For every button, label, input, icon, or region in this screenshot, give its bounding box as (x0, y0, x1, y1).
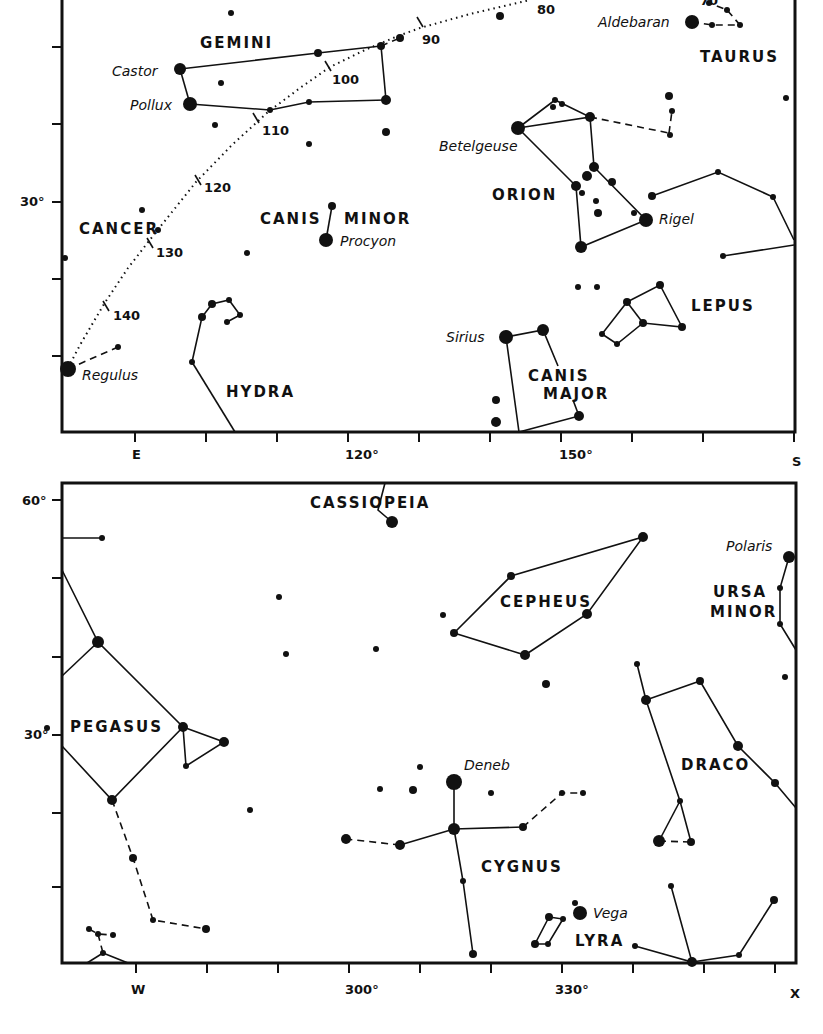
star-dot (574, 411, 584, 421)
star-dot (319, 233, 333, 247)
star-name-label: Rigel (659, 211, 694, 227)
ecliptic-mark-label: 90 (422, 32, 440, 47)
constellation-line (112, 800, 206, 929)
star-dot (283, 651, 289, 657)
star-dot (178, 722, 188, 732)
constellation-label: DRACO (681, 756, 750, 774)
star-dot (237, 312, 243, 318)
star-dot (226, 297, 232, 303)
star-dot (770, 194, 776, 200)
star-dot (129, 854, 137, 862)
star-dot (559, 790, 565, 796)
star-dot (594, 284, 600, 290)
constellation-line (659, 801, 680, 841)
star-dot (677, 798, 683, 804)
constellation-line (535, 917, 563, 944)
constellation-label: CANIS (260, 210, 322, 228)
star-dot (44, 725, 50, 731)
star-dot (736, 952, 742, 958)
x-axis-label: 150° (559, 447, 593, 462)
constellation-line (646, 681, 796, 808)
star-name-label: Aldebaran (597, 14, 670, 30)
north-sky-panel: W300°330°X60°30°CASSIOPEIACEPHEUSURSAMIN… (22, 483, 800, 1001)
star-dot (382, 128, 390, 136)
star-dot (306, 99, 312, 105)
ecliptic-tick (325, 61, 331, 71)
star-dot (594, 209, 602, 217)
star-dot (623, 298, 631, 306)
star-dot (770, 896, 778, 904)
star-dot (631, 210, 637, 216)
constellation-label: GEMINI (200, 34, 273, 52)
star-dot (488, 790, 494, 796)
constellation-label: MINOR (710, 603, 777, 621)
star-dot (634, 661, 640, 667)
ecliptic-tick (195, 175, 201, 185)
star-dot (777, 621, 783, 627)
star-dot (720, 253, 726, 259)
star-dot (92, 636, 104, 648)
constellation-label: HYDRA (226, 383, 295, 401)
star-dot (667, 132, 673, 138)
constellation-label: ORION (492, 186, 557, 204)
star-dot (737, 22, 743, 28)
x-axis-label: X (790, 986, 800, 1001)
star-dot (599, 331, 605, 337)
star-dot (183, 763, 189, 769)
star-dot (733, 741, 743, 751)
star-dot (219, 737, 229, 747)
star-dot (783, 551, 795, 563)
star-dot (247, 807, 253, 813)
constellation-line (780, 557, 796, 650)
star-dot (224, 319, 230, 325)
constellation-line (89, 929, 113, 935)
constellation-line (183, 727, 224, 766)
star-dot (110, 932, 116, 938)
constellation-label: MAJOR (543, 385, 609, 403)
constellation-line (506, 330, 558, 366)
star-dot (228, 10, 234, 16)
constellation-line (68, 347, 118, 369)
star-dot (639, 213, 653, 227)
star-dot (648, 192, 656, 200)
constellation-line (62, 642, 98, 676)
star-dot (492, 396, 500, 404)
star-dot (496, 12, 504, 20)
star-dot (573, 906, 587, 920)
star-dot (550, 104, 556, 110)
south-sky-panel: E120°150°S30°809010011012013014070GEMINI… (20, 0, 801, 469)
star-dot (641, 695, 651, 705)
star-dot (183, 97, 197, 111)
star-dot (531, 940, 539, 948)
star-dot (62, 255, 68, 261)
constellation-line (192, 300, 240, 362)
star-name-label: Deneb (464, 757, 510, 773)
constellation-line (590, 117, 669, 133)
star-dot (593, 198, 599, 204)
star-dot (511, 121, 525, 135)
star-dot (638, 532, 648, 542)
constellation-label: CANIS (528, 367, 590, 385)
constellation-line (523, 793, 583, 827)
x-axis-label: W (131, 982, 145, 997)
star-dot (99, 535, 105, 541)
star-name-label: Polaris (726, 538, 772, 554)
constellation-line (346, 839, 400, 845)
star-dot (669, 108, 675, 114)
ecliptic-mark-label: 110 (262, 123, 289, 138)
constellation-line (723, 245, 794, 256)
ecliptic-mark-label: 120 (204, 180, 231, 195)
star-dot (460, 878, 466, 884)
constellation-label: CYGNUS (481, 858, 563, 876)
star-dot (95, 931, 101, 937)
x-axis-label: 330° (555, 982, 589, 997)
star-dot (328, 202, 336, 210)
star-dot (560, 916, 566, 922)
star-dot (218, 80, 224, 86)
star-dot (520, 650, 530, 660)
star-dot (608, 178, 616, 186)
star-dot (60, 361, 76, 377)
star-dot (440, 612, 446, 618)
star-dot (545, 913, 553, 921)
star-dot (771, 779, 779, 787)
